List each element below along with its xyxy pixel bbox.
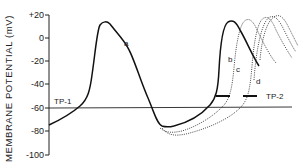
tick-label: 0: [39, 33, 44, 43]
curve-b: [174, 21, 259, 126]
curve-b-label: b: [228, 55, 233, 64]
curve-d: [162, 18, 292, 136]
curve-f: [260, 16, 298, 60]
tp1-label: TP-1: [54, 97, 72, 106]
curve-e: [254, 17, 296, 80]
y-ticks: [45, 15, 49, 155]
tick-label: -100: [26, 150, 44, 160]
y-tick-labels: +20 0 -20 -40 -60 -80 -100: [26, 10, 44, 160]
tick-label: -60: [31, 103, 44, 113]
curve-a-label: a: [124, 39, 129, 48]
action-potential-chart: MEMBRANE POTENTIAL (mV) +20 0 -20 -40 -6…: [0, 0, 299, 167]
tick-label: -20: [31, 56, 44, 66]
curve-a: [49, 22, 174, 127]
y-axis-title: MEMBRANE POTENTIAL (mV): [3, 15, 14, 162]
tick-label: -80: [31, 126, 44, 136]
curve-c-label: c: [236, 65, 240, 74]
tp2-label: TP-2: [266, 92, 284, 101]
tick-label: -40: [31, 79, 44, 89]
reference-line: [49, 107, 292, 108]
curve-d-label: d: [256, 77, 260, 86]
tick-label: +20: [29, 10, 44, 20]
